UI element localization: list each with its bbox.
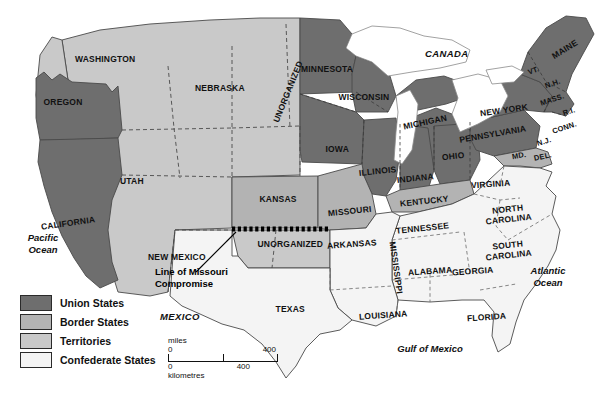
legend-item-union-states[interactable]: Union States — [20, 294, 156, 312]
legend-swatch — [20, 295, 52, 311]
state-label-nebraska: NEBRASKA — [195, 84, 245, 94]
state-label-line: OREGON — [44, 98, 83, 108]
state-label-maryland: MD. — [511, 150, 527, 161]
state-label-new-mexico: NEW MEXICO — [148, 253, 206, 263]
country-label-mexico: MEXICO — [160, 311, 200, 322]
state-label-line: UTAH — [120, 177, 144, 187]
missouri-compromise-line-1: Line of Missouri — [155, 266, 228, 278]
scale-miles-end: 400 — [263, 345, 276, 354]
state-label-oregon: OREGON — [44, 98, 83, 108]
state-minnesota-shape — [300, 18, 356, 94]
state-california-shape — [38, 138, 122, 288]
ocean-label-atlantic: Atlantic Ocean — [512, 265, 584, 289]
scale-bar-tick — [223, 354, 224, 361]
pacific-line-1: Pacific — [8, 232, 78, 244]
state-label-line: WISCONSIN — [339, 93, 390, 103]
missouri-compromise-line-2: Compromise — [155, 278, 228, 290]
state-label-line: KANSAS — [260, 195, 297, 205]
state-label-texas: TEXAS — [276, 305, 305, 315]
legend-item-territories[interactable]: Territories — [20, 332, 156, 350]
civil-war-map: WASHINGTONOREGONCALIFORNIAUTAHNEW MEXICO… — [0, 0, 603, 400]
pacific-line-2: Ocean — [8, 244, 78, 256]
legend-label: Territories — [60, 335, 111, 347]
scale-km-start: 0 — [168, 362, 172, 371]
state-label-line: MD. — [511, 150, 527, 161]
ocean-label-gulf-of-mexico: Gulf of Mexico — [375, 343, 485, 355]
state-label-utah: UTAH — [120, 177, 144, 187]
legend-label: Confederate States — [60, 354, 156, 366]
scale-miles-start: 0 — [168, 345, 172, 354]
atlantic-line-2: Ocean — [512, 277, 584, 289]
scale-bar-graphic — [168, 354, 278, 362]
ocean-label-pacific: Pacific Ocean — [8, 232, 78, 256]
scale-miles-caption: miles — [168, 336, 288, 345]
state-label-line: TEXAS — [276, 305, 305, 315]
legend-swatch — [20, 333, 52, 349]
state-label-line: IOWA — [326, 145, 349, 155]
state-label-iowa: IOWA — [326, 145, 349, 155]
legend-label: Union States — [60, 297, 124, 309]
scale-bar: miles 0 400 0 400 kilometres — [168, 336, 288, 380]
state-label-kansas: KANSAS — [260, 195, 297, 205]
state-label-washington: WASHINGTON — [75, 55, 135, 65]
state-label-line: WASHINGTON — [75, 55, 135, 65]
legend-item-border-states[interactable]: Border States — [20, 313, 156, 331]
legend: Union StatesBorder StatesTerritoriesConf… — [20, 294, 156, 370]
country-label-canada: CANADA — [425, 48, 469, 59]
state-label-line: NEW MEXICO — [148, 253, 206, 263]
state-label-wisconsin: WISCONSIN — [339, 93, 390, 103]
legend-swatch — [20, 352, 52, 368]
legend-label: Border States — [60, 316, 129, 328]
scale-km-caption: kilometres — [168, 371, 288, 380]
legend-item-confederate-states[interactable]: Confederate States — [20, 351, 156, 369]
missouri-compromise-annotation: Line of Missouri Compromise — [155, 266, 228, 290]
legend-swatch — [20, 314, 52, 330]
atlantic-line-1: Atlantic — [512, 265, 584, 277]
state-label-line: MINNESOTA — [301, 65, 353, 75]
state-label-line: UNORGANIZED — [258, 240, 323, 250]
state-label-line: NEBRASKA — [195, 84, 245, 94]
state-label-unorganized-s: UNORGANIZED — [258, 240, 323, 250]
state-label-minnesota: MINNESOTA — [301, 65, 353, 75]
scale-km-mid: 400 — [237, 362, 250, 371]
